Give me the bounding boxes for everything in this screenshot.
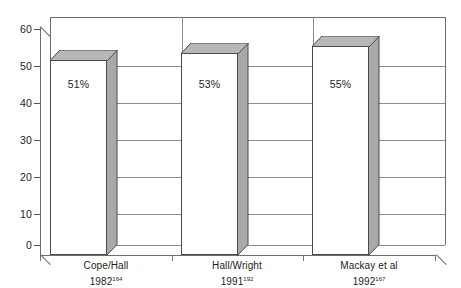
bar-side-face-3 — [368, 36, 380, 256]
category-3-line1: Mackay et al — [340, 260, 397, 271]
y-axis-label-0: 0 — [6, 240, 32, 251]
x-axis-category-label-1: Cope/Hall 1982164 — [46, 260, 166, 288]
category-1-line2: 1982164 — [46, 273, 166, 288]
bar-chart: 60 50 40 30 20 10 0 — [0, 0, 461, 288]
y-axis-label-60: 60 — [6, 24, 32, 35]
bar-value-label-3: 55% — [312, 78, 369, 90]
x-tick-mark-3 — [303, 256, 304, 261]
bar-value-label-1: 51% — [50, 78, 107, 90]
y-axis-label-10: 10 — [6, 209, 32, 220]
bar-value-label-2: 53% — [181, 78, 238, 90]
y-axis-label-50: 50 — [6, 61, 32, 72]
x-tick-mark-1 — [40, 256, 41, 261]
category-2-year: 1991 — [221, 276, 244, 287]
bar-side-face-2 — [237, 43, 249, 256]
y-axis-label-40: 40 — [6, 98, 32, 109]
y-axis-label-30: 30 — [6, 135, 32, 146]
category-2-line1: Hall/Wright — [212, 260, 262, 271]
category-1-citation: 164 — [112, 276, 122, 282]
bar-side-face-1 — [106, 50, 118, 256]
x-tick-mark-4 — [435, 256, 436, 261]
back-wall-top-edge — [50, 17, 446, 18]
depth-diagonal-bottom-right — [436, 254, 447, 265]
category-2-line2: 1991192 — [177, 273, 297, 288]
y-axis-label-20: 20 — [6, 172, 32, 183]
bar-top-face-1 — [50, 50, 118, 61]
category-3-line2: 1992167 — [309, 273, 429, 288]
x-axis-category-label-2: Hall/Wright 1991192 — [177, 260, 297, 288]
x-axis-category-label-3: Mackay et al 1992167 — [309, 260, 429, 288]
category-3-citation: 167 — [375, 276, 385, 282]
back-wall-right-edge — [445, 17, 446, 245]
bar-top-face-2 — [181, 43, 249, 54]
category-1-year: 1982 — [90, 276, 113, 287]
bar-top-face-3 — [312, 36, 380, 47]
category-2-citation: 192 — [243, 276, 253, 282]
y-axis-line — [40, 27, 41, 255]
category-3-year: 1992 — [353, 276, 376, 287]
x-tick-mark-2 — [172, 256, 173, 261]
category-1-line1: Cope/Hall — [84, 260, 129, 271]
